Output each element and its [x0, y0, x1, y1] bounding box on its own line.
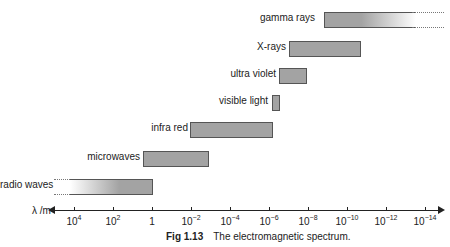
axis-tick [386, 207, 387, 211]
figure-caption: Fig 1.13The electromagnetic spectrum. [166, 231, 351, 242]
axis-tick-label: 10−12 [375, 214, 398, 227]
band-label-gamma-rays: gamma rays [260, 12, 315, 23]
band-infra-red [190, 122, 273, 138]
axis-tick [347, 207, 348, 211]
axis-tick-label: 104 [66, 214, 81, 227]
band-label-ultra-violet: ultra violet [230, 68, 276, 79]
axis-tick [269, 207, 270, 211]
wavelength-axis [52, 210, 440, 211]
axis-tick [425, 207, 426, 211]
axis-tick-label: 10−6 [259, 214, 278, 227]
axis-tick [113, 207, 114, 211]
band-ultra-violet [279, 68, 307, 84]
axis-tick-label: 10−8 [298, 214, 317, 227]
figure-number: Fig 1.13 [166, 231, 203, 242]
band-label-radio-waves: radio waves [0, 179, 53, 190]
axis-tick-label: 10−2 [181, 214, 200, 227]
axis-tick [74, 207, 75, 211]
band-microwaves [143, 151, 209, 167]
band-label-visible-light: visible light [219, 95, 268, 106]
band-gamma-rays [324, 12, 416, 28]
figure-caption-text: The electromagnetic spectrum. [213, 231, 350, 242]
band-x-rays [289, 41, 361, 57]
axis-tick-label: 1 [149, 214, 155, 227]
axis-tick [308, 207, 309, 211]
axis-tick-label: 10−4 [220, 214, 239, 227]
axis-tick [152, 207, 153, 211]
axis-tick-label: 10−14 [414, 214, 437, 227]
axis-tick [230, 207, 231, 211]
band-label-infra-red: infra red [151, 122, 188, 133]
band-visible-light [272, 95, 280, 111]
axis-tick-label: 102 [105, 214, 120, 227]
axis-tick [191, 207, 192, 211]
axis-tick-label: 10−10 [336, 214, 359, 227]
band-gamma-rays-open-end [412, 12, 444, 28]
axis-arrow-right-icon [438, 206, 445, 214]
band-label-x-rays: X-rays [257, 41, 286, 52]
band-radio-waves [70, 179, 153, 195]
band-label-microwaves: microwaves [87, 151, 140, 162]
